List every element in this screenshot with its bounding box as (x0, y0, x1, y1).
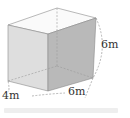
height-label: 6m (101, 39, 118, 50)
width-label: 4m (2, 90, 19, 101)
caption-placeholder (4, 108, 118, 113)
depth-label: 6m (68, 86, 85, 97)
depth-dimension-line (85, 78, 93, 98)
front-face (8, 25, 48, 91)
prism-diagram (0, 0, 130, 118)
bottom-dimension-line (32, 93, 65, 96)
